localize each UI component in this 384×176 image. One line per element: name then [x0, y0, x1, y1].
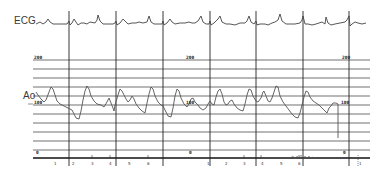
tick-label: 4 [109, 161, 112, 166]
vertical-markers [69, 11, 349, 166]
scale-label-200: 200 [342, 55, 350, 60]
scale-label-100: 100 [186, 100, 194, 105]
scale-label-200: 200 [34, 55, 42, 60]
scale-label-200: 200 [186, 55, 194, 60]
scale-label-0: 0 [189, 150, 192, 155]
tick-label: 2 [72, 161, 75, 166]
tick-label: 2 [225, 161, 228, 166]
scale-label-0: 0 [36, 150, 39, 155]
ao-trace [36, 86, 338, 138]
tick-label: 3 [91, 161, 94, 166]
tick-label: 6 [147, 161, 150, 166]
ecg-trace [36, 14, 366, 26]
tick-label: 1 [54, 161, 57, 166]
ecg-label: ECG [14, 15, 36, 26]
scale-label-100: 100 [34, 100, 42, 105]
tick-label: 4 [261, 161, 264, 166]
scale-label-0: 0 [343, 150, 346, 155]
tick-label: 3 [243, 161, 246, 166]
tick-label: 5 [128, 161, 131, 166]
tick-label: 1 [359, 161, 362, 166]
scale-label-100: 100 [341, 100, 349, 105]
ecg-ao-chart [0, 0, 384, 176]
tick-label: 6 [298, 161, 301, 166]
tick-label: 5 [280, 161, 283, 166]
tick-label: 1 [207, 161, 210, 166]
